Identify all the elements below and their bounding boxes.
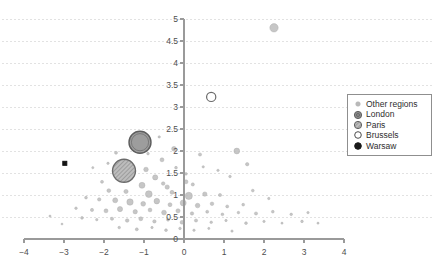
x-axis-tick-label: −3 xyxy=(50,248,78,257)
legend-item-paris[interactable]: Paris xyxy=(352,120,427,130)
x-axis-tick-label: 4 xyxy=(330,248,358,257)
y-axis-tick-label: 2 xyxy=(140,147,178,156)
legend-item-label: Brussels xyxy=(366,131,399,140)
x-axis-tick-label: 3 xyxy=(290,248,318,257)
y-axis-tick-label: 1 xyxy=(140,191,178,200)
y-axis-tick-label: 0.5 xyxy=(140,213,178,222)
legend-item-brussels[interactable]: Brussels xyxy=(352,130,427,140)
y-axis-tick-label: 2.5 xyxy=(140,125,178,134)
chart-legend: Other regionsLondonParisBrusselsWarsaw xyxy=(347,94,432,156)
y-axis-tick-label: 1.5 xyxy=(140,169,178,178)
filled-circle-ring-icon xyxy=(352,110,364,120)
x-axis-tick-label: −1 xyxy=(130,248,158,257)
filled-circle-small-icon xyxy=(352,99,364,109)
legend-item-other-regions[interactable]: Other regions xyxy=(352,99,427,109)
x-axis-tick-label: 0 xyxy=(170,248,198,257)
x-axis-tick-label: 2 xyxy=(250,248,278,257)
y-axis-tick-label: 4.5 xyxy=(140,37,178,46)
legend-item-label: Warsaw xyxy=(366,142,396,151)
filled-circle-black-icon xyxy=(352,141,364,151)
legend-item-label: Paris xyxy=(366,121,385,130)
legend-item-label: London xyxy=(366,110,394,119)
open-circle-icon xyxy=(352,130,364,140)
y-axis-tick-label: 3 xyxy=(140,103,178,112)
x-axis-tick-label: −2 xyxy=(90,248,118,257)
axes xyxy=(24,19,344,243)
y-axis-tick-label: 4 xyxy=(140,59,178,68)
y-axis-tick-label: 5 xyxy=(140,15,178,24)
legend-item-label: Other regions xyxy=(366,100,418,109)
y-axis-tick-label: 0 xyxy=(140,235,178,244)
x-axis-tick-label: −4 xyxy=(10,248,38,257)
x-axis-tick-label: 1 xyxy=(210,248,238,257)
legend-item-warsaw[interactable]: Warsaw xyxy=(352,141,427,151)
legend-item-london[interactable]: London xyxy=(352,109,427,119)
hatched-circle-icon xyxy=(352,120,364,130)
y-axis-tick-label: 3.5 xyxy=(140,81,178,90)
scatter-plot-figure: 00.511.522.533.544.55−4−3−2−101234 Other… xyxy=(0,0,436,270)
